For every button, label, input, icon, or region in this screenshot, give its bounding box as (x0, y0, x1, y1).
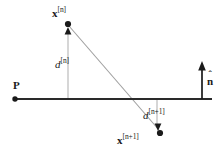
label-point-upper: x[n] (52, 6, 66, 19)
label-distance-lower-superscript: [n+1] (149, 107, 165, 116)
label-distance-lower: d[n+1] (143, 108, 165, 121)
normal-hat-accent-icon: ˆ (208, 70, 211, 80)
label-point-lower: x[n+1] (117, 133, 139, 146)
plane-origin-point-marker (12, 96, 17, 101)
label-distance-upper-superscript: [n] (61, 56, 69, 65)
point-plane-distance-diagram: x[n] x[n+1] d[n] d[n+1] P ˆn (0, 0, 221, 152)
label-normal-vector: ˆn (207, 72, 213, 88)
label-point-lower-superscript: [n+1] (123, 132, 139, 141)
normal-vector-arrowhead-icon (198, 61, 206, 71)
diagram-canvas (0, 0, 221, 152)
label-point-upper-superscript: [n] (58, 5, 66, 14)
label-distance-upper: d[n] (55, 57, 69, 70)
lower-distance-arrowhead-icon (155, 124, 162, 132)
lower-point-marker (157, 130, 163, 136)
label-plane: P (13, 80, 20, 91)
upper-point-marker (65, 21, 71, 27)
